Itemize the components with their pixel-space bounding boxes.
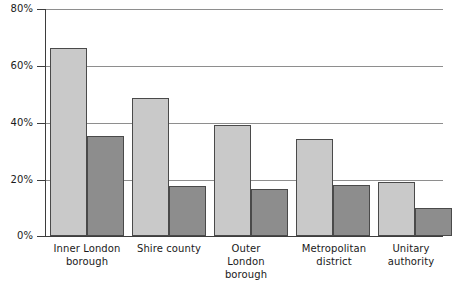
gridline-40 <box>45 123 443 124</box>
y-tick-label-0-text: 0% <box>17 230 33 241</box>
x-category-label-inner-london-borough: Inner London borough <box>45 242 129 268</box>
y-tick-label-40-text: 40% <box>10 117 33 128</box>
y-tick-mark-20 <box>37 180 45 181</box>
bar-inner-london-borough-series-1 <box>50 48 87 236</box>
x-category-label-outer-london-borough: Outer London borough <box>215 242 277 281</box>
bar-unitary-authority-series-2 <box>415 208 452 236</box>
y-tick-mark-0 <box>37 236 45 237</box>
x-axis-line <box>45 236 443 237</box>
bar-unitary-authority-series-1 <box>378 182 415 236</box>
bar-inner-london-borough-series-2 <box>87 136 124 236</box>
x-category-label-unitary-authority: Unitary authority <box>378 242 444 268</box>
bar-metropolitan-district-series-2 <box>333 185 370 236</box>
bar-outer-london-borough-series-2 <box>251 189 288 236</box>
bar-outer-london-borough-series-1 <box>214 125 251 236</box>
bar-metropolitan-district-series-1 <box>296 139 333 236</box>
y-tick-label-80-text: 80% <box>10 3 33 14</box>
y-tick-label-20-text: 20% <box>10 174 33 185</box>
y-tick-label-60-text: 60% <box>10 60 33 71</box>
bar-shire-county-series-2 <box>169 186 206 236</box>
y-tick-mark-40 <box>37 123 45 124</box>
x-category-label-metropolitan-district: Metropolitan district <box>288 242 380 268</box>
bar-shire-county-series-1 <box>132 98 169 236</box>
y-axis-line <box>45 9 46 237</box>
plot-area <box>45 0 443 237</box>
gridline-60 <box>45 66 443 67</box>
y-tick-mark-80 <box>37 9 45 10</box>
x-category-label-shire-county: Shire county <box>128 242 210 255</box>
gridline-80 <box>45 9 443 10</box>
y-tick-mark-60 <box>37 66 45 67</box>
